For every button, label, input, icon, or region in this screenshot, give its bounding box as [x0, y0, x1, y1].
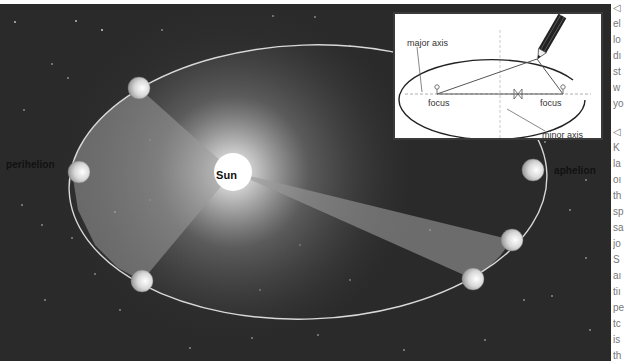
minor-axis-label: minor axis	[542, 130, 583, 140]
side-text-line: w	[613, 82, 620, 94]
planet-right-lower	[462, 268, 484, 290]
planet-top-left	[128, 77, 150, 99]
side-text-line: pe	[613, 302, 624, 314]
ellipse-drawing-inset: major axis focus focus minor axis	[393, 12, 603, 140]
planet-bottom-left	[131, 270, 153, 292]
sun-label: Sun	[216, 169, 237, 181]
side-text-line: ◁	[613, 126, 621, 138]
focus-left-label: focus	[428, 98, 450, 108]
side-text-line: oı	[613, 174, 621, 186]
side-text-line: st	[613, 66, 621, 78]
orbit-illustration: perihelion aphelion Sun	[0, 4, 611, 361]
side-text-line: lo	[613, 34, 621, 46]
perihelion-label: perihelion	[6, 159, 55, 170]
focus-right-label: focus	[540, 98, 562, 108]
side-text-column: ◁ el lo dı st w yo ◁ K la oı th sp sa jo…	[613, 0, 629, 364]
major-axis-label: major axis	[407, 38, 448, 48]
side-text-line: el	[613, 18, 621, 30]
side-text-line: sa	[613, 222, 624, 234]
side-text-line: tiı	[613, 286, 621, 298]
aphelion-planet	[522, 159, 544, 181]
side-text-line: dı	[613, 50, 621, 62]
aphelion-label: aphelion	[554, 165, 596, 176]
side-text-line: aı	[613, 270, 621, 282]
side-text-line: tc	[613, 318, 621, 330]
side-text-line: la	[613, 158, 621, 170]
side-text-line: K	[613, 142, 620, 154]
side-text-line: yo	[613, 98, 624, 110]
side-text-line: is	[613, 334, 620, 346]
side-text-line: jo	[613, 238, 621, 250]
side-text-line: ◁	[613, 2, 621, 14]
pencil-icon	[534, 14, 567, 61]
planet-right-upper	[501, 229, 523, 251]
side-text-line: sp	[613, 206, 624, 218]
side-text-line: th	[613, 190, 621, 202]
perihelion-planet	[68, 161, 90, 183]
side-text-line: S	[613, 254, 620, 266]
inset-svg	[395, 14, 601, 138]
side-text-line: th	[613, 350, 621, 362]
